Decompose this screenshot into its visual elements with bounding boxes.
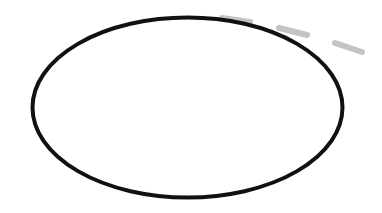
diagram-canvas bbox=[0, 0, 382, 213]
ellipse-outline bbox=[33, 18, 343, 198]
dash-segment bbox=[335, 43, 362, 52]
dash-segment bbox=[279, 28, 307, 35]
